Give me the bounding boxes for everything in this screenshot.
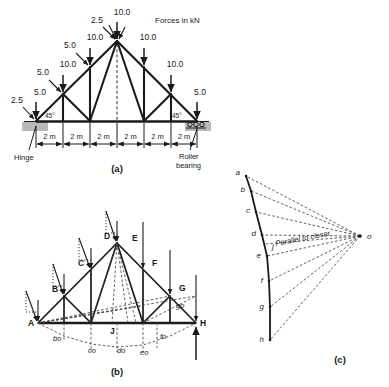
load-arrow-B-5 [49,80,61,92]
joint-label-A: A [28,318,34,328]
load-label-G-10: 10.0 [167,59,184,69]
c-label-b: b [241,185,246,194]
caption-a: (a) [111,163,123,174]
joint-label-E: E [132,233,138,243]
c-ray-oh [270,236,360,340]
forces-unit-note: Forces in kN [155,16,200,25]
load-arrow-apex-aux2 [119,27,125,39]
construction-label-do: do [117,346,125,355]
c-label-e: e [257,251,262,260]
load-label-A-5: 5.0 [34,87,46,97]
b-ray-E4 [117,243,136,323]
c-annotation-parallel-to-closer: Parallel to closer [275,228,332,248]
c-label-j: j [271,242,274,251]
c-ray-og [270,236,360,307]
dim-label-3: 2 m [97,132,110,141]
c-ray-ob [251,191,360,236]
b-ray-A2 [38,296,170,323]
joint-label-B: B [52,284,58,294]
load-label-H-5: 5.0 [194,87,206,97]
c-vertex-d-dot [261,234,264,237]
c-vertex-c-dot [255,211,258,214]
joint-label-C: C [78,258,84,268]
panel-a: 2.5 10.0 5.0 10.0 5.0 10.0 2.5 5.0 10.0 … [11,7,211,174]
load-arrow-C-5 [76,53,88,65]
roller-label-line2: bearing [176,161,201,170]
construction-label-co: co [88,346,96,355]
c-label-d: d [252,229,257,238]
c-ray-oa [246,176,360,236]
load-label-apex-10: 10.0 [114,7,131,17]
b-web-diagonal-right [143,296,170,323]
c-label-c: c [246,206,250,215]
angle-label-left: 45° [45,112,55,119]
construction-label-go: go [176,301,184,310]
construction-label-eo: eo [140,348,148,357]
b-load-A-incl [26,291,37,321]
load-label-C-10: 10.0 [87,32,104,42]
caption-b: (b) [111,366,123,377]
c-label-a: a [236,168,241,177]
c-vertex-a-dot [245,175,248,178]
dim-label-4: 2 m [124,132,137,141]
joint-label-D: D [104,231,110,241]
construction-label-bo: bo [53,334,61,343]
c-vertex-f-dot [268,280,271,283]
panel-c: a b c d j e f g h o Parallel to closer (… [236,168,372,365]
dim-label-5: 2 m [151,132,164,141]
load-label-C-5: 5.0 [64,40,76,50]
c-label-g: g [260,302,265,311]
dim-label-2: 2 m [70,132,83,141]
load-label-F-10: 10.0 [140,32,157,42]
c-label-pole-o: o [367,232,372,241]
dimension-line: 2 m 2 m 2 m 2 m 2 m 2 m [36,123,197,148]
c-label-h: h [260,335,265,344]
load-label-B-5: 5.0 [37,67,49,77]
c-vertex-g-dot [269,306,272,309]
joint-label-J: J [110,326,115,336]
roller-label-line1: Roller [179,152,199,161]
dim-label-1: 2 m [43,132,56,141]
c-label-f: f [261,276,264,285]
b-web-diagonal-left [64,296,91,323]
load-label-A-2p5: 2.5 [11,95,23,105]
construction-label-fo: fo [160,332,166,341]
load-arrow-A-2p5 [23,107,34,119]
panel-b: A B C D E F G H J bo co do eo fo go (b) [26,211,206,377]
joint-label-G: G [179,283,186,293]
c-vertex-b-dot [250,190,253,193]
joint-label-H: H [200,318,206,328]
load-label-B-10: 10.0 [60,59,77,69]
dim-label-6: 2 m [178,132,191,141]
b-ray-E3 [117,243,128,323]
web-diagonal-right [144,94,171,121]
c-pole-dot [358,234,362,238]
caption-c: (c) [334,354,346,365]
joint-label-F: F [152,258,157,268]
b-bracket-C [79,238,91,260]
hinge-label: Hinge [14,153,34,162]
roller-leader [190,129,197,150]
c-vertex-h-dot [269,339,272,342]
c-vertex-e-dot [266,255,269,258]
load-label-apex-2p5: 2.5 [91,15,103,25]
engineering-figure: 2.5 10.0 5.0 10.0 5.0 10.0 2.5 5.0 10.0 … [0,0,389,387]
angle-label-right: 45° [172,112,182,119]
web-diagonal-left [63,94,90,121]
b-left-rafter [38,243,117,323]
diagonal-apex-right [117,41,144,121]
